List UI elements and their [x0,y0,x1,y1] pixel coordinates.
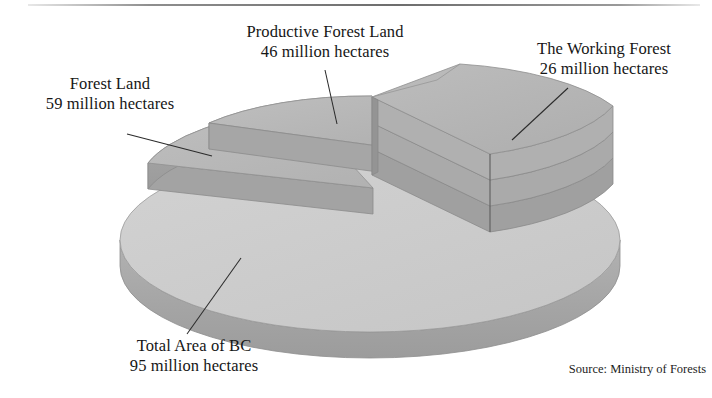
label-forest-value: 59 million hectares [2,94,218,114]
figure-page: Productive Forest Land 46 million hectar… [0,0,712,398]
label-total-area-of-bc: Total Area of BC 95 million hectares [78,336,310,376]
label-the-working-forest: The Working Forest 26 million hectares [496,39,712,79]
source-credit: Source: Ministry of Forests [470,362,706,377]
label-forest-title: Forest Land [2,74,218,94]
working-forest-cut-face [372,97,378,175]
label-productive-title: Productive Forest Land [190,22,460,42]
label-total-title: Total Area of BC [78,336,310,356]
label-working-title: The Working Forest [496,39,712,59]
label-forest-land: Forest Land 59 million hectares [2,74,218,114]
label-productive-value: 46 million hectares [190,42,460,62]
label-total-value: 95 million hectares [78,356,310,376]
label-productive-forest-land: Productive Forest Land 46 million hectar… [190,22,460,62]
label-working-value: 26 million hectares [496,59,712,79]
